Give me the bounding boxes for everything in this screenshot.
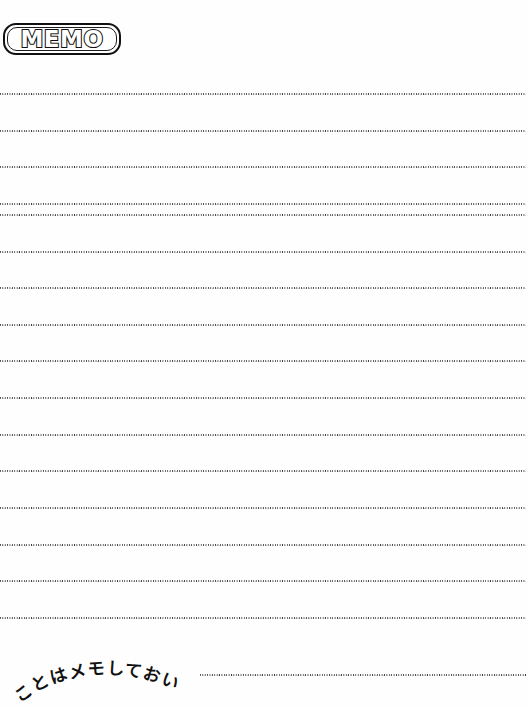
rule-line [0, 617, 526, 619]
rule-line [0, 580, 526, 582]
rule-line [0, 324, 526, 326]
arc-caption-text: ことはメモしておい [10, 658, 183, 707]
memo-title-text: MEMO [5, 28, 119, 51]
rule-line [0, 507, 526, 509]
rule-line [0, 287, 526, 289]
rule-line [0, 214, 526, 216]
arc-caption: ことはメモしておい [0, 648, 230, 707]
rule-line [0, 203, 526, 205]
rule-line [0, 434, 526, 436]
rule-line [0, 544, 526, 546]
rule-line [0, 397, 526, 399]
memo-page: MEMO ことはメモしておい [0, 0, 528, 707]
rule-line [200, 674, 526, 676]
rule-line [0, 93, 526, 95]
rule-line [0, 251, 526, 253]
memo-title-badge: MEMO [3, 23, 121, 55]
rule-line [0, 166, 526, 168]
rule-line [0, 470, 526, 472]
rule-line [0, 360, 526, 362]
rule-line [0, 130, 526, 132]
